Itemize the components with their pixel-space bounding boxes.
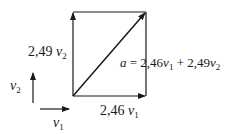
label-basis-v1: v1 — [53, 116, 64, 132]
plus-text: + 2,49 — [173, 55, 210, 70]
label-basis-v2: v2 — [10, 79, 21, 95]
label-2-49-v2: 2,49 v2 — [28, 45, 67, 61]
sub-text: 2 — [62, 51, 67, 61]
sub-text: 1 — [59, 122, 64, 132]
label-resultant-a: a = 2,46v1 + 2,49v2 — [120, 56, 220, 72]
s2-text: 2 — [216, 62, 221, 72]
coef-text: 2,49 — [28, 44, 53, 59]
label-2-46-v1: 2,46 v1 — [100, 104, 139, 120]
eq-text: = 2,46 — [127, 55, 164, 70]
sub-text: 2 — [16, 85, 21, 95]
sub-text: 1 — [134, 110, 139, 120]
coef-text: 2,46 — [100, 103, 125, 118]
